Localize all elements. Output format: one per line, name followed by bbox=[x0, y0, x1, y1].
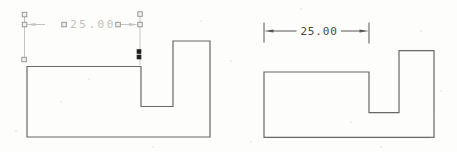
scan-speckle bbox=[152, 146, 154, 148]
grip-dimline-right-end[interactable] bbox=[138, 22, 143, 27]
right-part-outline[interactable] bbox=[264, 51, 434, 138]
scan-speckle bbox=[350, 121, 352, 123]
scan-speckle bbox=[431, 136, 433, 138]
scan-speckle bbox=[380, 146, 382, 148]
grip-dimline-left-end[interactable] bbox=[22, 22, 27, 27]
cad-vector-layer bbox=[0, 0, 457, 152]
left-dim-arrowhead-left bbox=[26, 23, 36, 26]
left-part-profile-path[interactable] bbox=[27, 41, 210, 137]
hot-grip-upper[interactable] bbox=[137, 49, 142, 54]
scan-speckle bbox=[60, 101, 62, 103]
left-dimension-hot-grips bbox=[137, 49, 142, 59]
grip-ext-right-top[interactable] bbox=[138, 12, 143, 16]
scan-speckle bbox=[300, 8, 302, 10]
right-dim-arrowhead-right bbox=[360, 30, 370, 33]
scan-speckle bbox=[230, 60, 232, 62]
scan-speckle bbox=[200, 20, 202, 22]
left-dim-arrowhead-right bbox=[129, 23, 139, 26]
right-part-profile-path[interactable] bbox=[264, 51, 434, 138]
grip-text-right[interactable] bbox=[116, 22, 121, 27]
scan-speckle bbox=[88, 78, 90, 80]
scan-speckle bbox=[420, 30, 422, 32]
grip-text-left[interactable] bbox=[62, 22, 67, 27]
grip-defpoint-left[interactable] bbox=[22, 57, 27, 62]
hot-grip-lower[interactable] bbox=[137, 55, 142, 60]
left-part-outline[interactable] bbox=[27, 41, 210, 137]
left-dimension-value-text[interactable]: 25.00 bbox=[70, 19, 116, 30]
scan-speckle bbox=[15, 130, 17, 132]
cad-drawing-canvas[interactable]: 25.00 25.00 bbox=[0, 0, 457, 152]
scan-speckle bbox=[250, 141, 252, 143]
grip-ext-left-top[interactable] bbox=[22, 12, 27, 16]
right-dimension-value-text[interactable]: 25.00 bbox=[300, 26, 337, 37]
right-dim-arrowhead-left bbox=[264, 30, 274, 33]
scan-speckle bbox=[440, 90, 442, 92]
